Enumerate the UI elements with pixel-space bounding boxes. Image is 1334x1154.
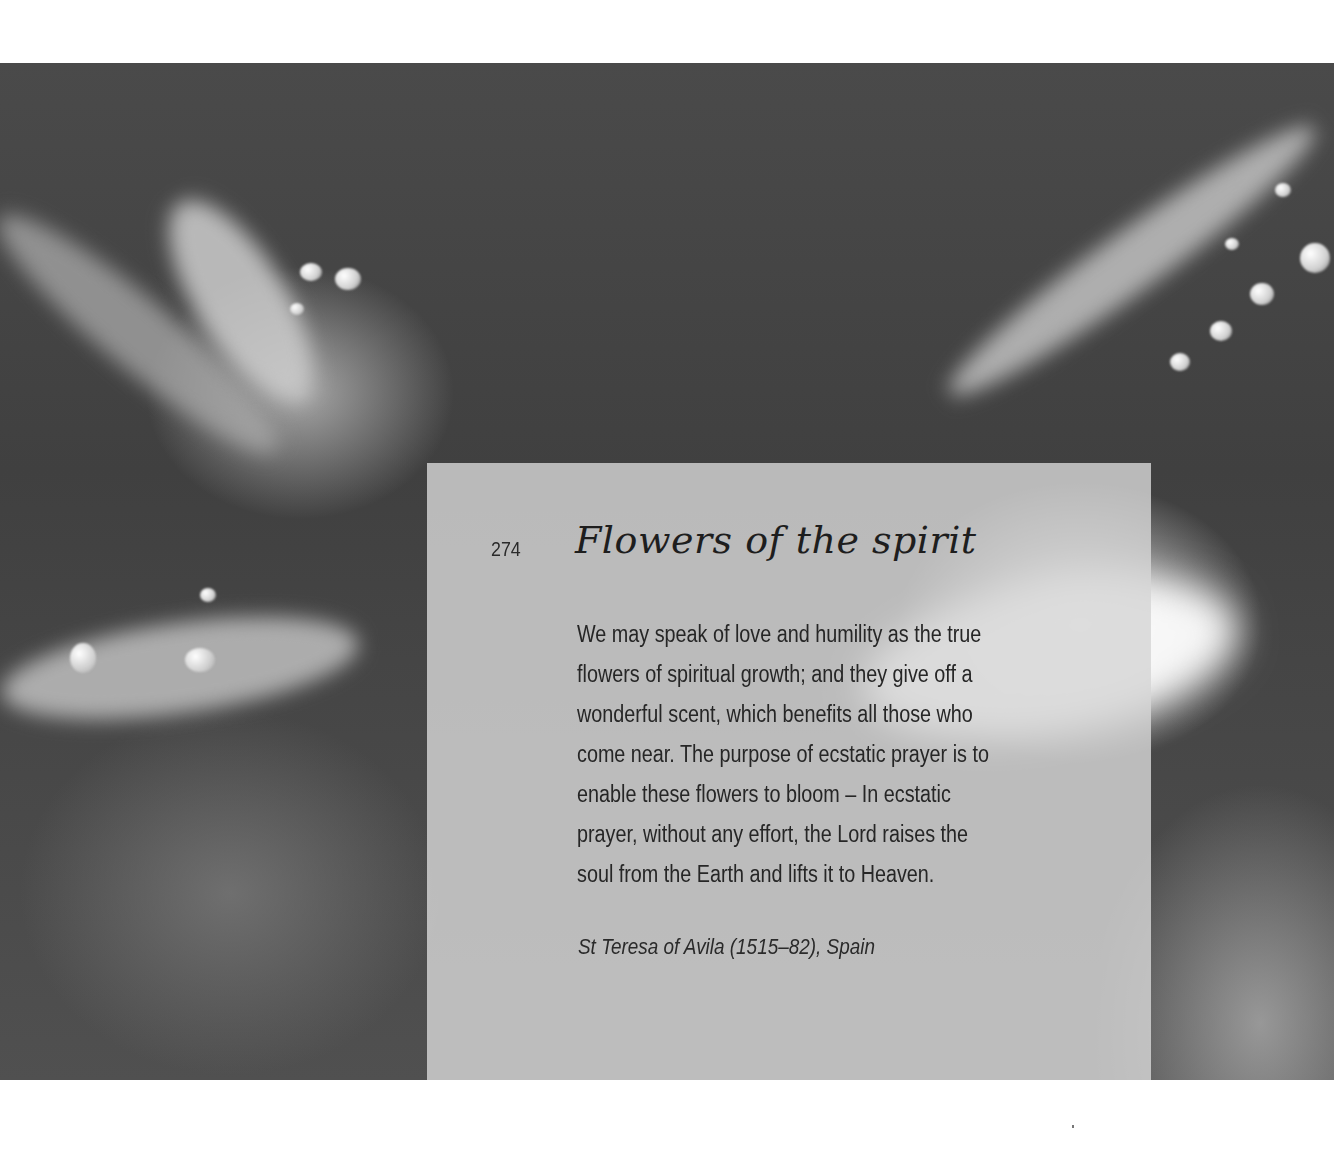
page-number: 274 (491, 537, 521, 561)
dew-drop (1210, 321, 1232, 341)
quote-line: We may speak of love and humility as the… (577, 614, 1024, 654)
scan-speck (1072, 1125, 1074, 1128)
quote-line: prayer, without any effort, the Lord rai… (577, 814, 1024, 854)
quote-body: We may speak of love and humility as the… (577, 614, 1024, 894)
dew-drop (1275, 183, 1291, 197)
dew-stem-right (932, 104, 1331, 417)
dew-drop (1170, 353, 1190, 371)
quote-attribution: St Teresa of Avila (1515–82), Spain (578, 934, 875, 960)
page-title: Flowers of the spirit (575, 518, 977, 562)
quote-line: enable these flowers to bloom – In ecsta… (577, 774, 1024, 814)
quote-line: flowers of spiritual growth; and they gi… (577, 654, 1024, 694)
dew-drop (300, 263, 322, 281)
quote-line: soul from the Earth and lifts it to Heav… (577, 854, 1024, 894)
dew-drop (200, 588, 216, 602)
dew-drop (1300, 243, 1330, 273)
quote-line: wonderful scent, which benefits all thos… (577, 694, 1024, 734)
dew-drop (185, 648, 215, 672)
dew-drop (1225, 238, 1239, 250)
dew-drop (70, 643, 96, 673)
dew-drop (1250, 283, 1274, 305)
dew-stem-left (0, 598, 365, 737)
quote-line: come near. The purpose of ecstatic praye… (577, 734, 1024, 774)
dew-drop (335, 268, 361, 290)
dew-drop (290, 303, 304, 315)
